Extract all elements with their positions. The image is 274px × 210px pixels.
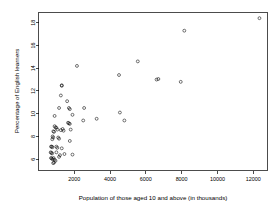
data-points: [49, 17, 261, 165]
data-point: [53, 114, 56, 117]
plot-canvas: 681012141618 20004000600080001000012000 …: [0, 0, 274, 210]
data-point: [60, 147, 63, 150]
data-point: [118, 111, 121, 114]
data-point: [155, 78, 158, 81]
x-axis-title: Population of those aged 10 and above (i…: [79, 194, 228, 201]
data-point: [68, 140, 71, 143]
y-tick-label: 10: [31, 111, 37, 117]
x-axis-tick-labels: 20004000600080001000012000: [68, 176, 260, 182]
data-point: [179, 80, 182, 83]
x-tick-label: 8000: [176, 176, 188, 182]
x-tick-label: 10000: [210, 176, 225, 182]
data-point: [76, 64, 79, 67]
data-point: [95, 117, 98, 120]
plot-frame: [39, 13, 268, 171]
data-point: [52, 162, 55, 165]
data-point: [58, 107, 61, 110]
data-point: [55, 151, 58, 154]
x-tick-label: 2000: [68, 176, 80, 182]
x-axis-ticks: [74, 171, 253, 174]
y-axis-tick-labels: 681012141618: [31, 20, 37, 161]
y-tick-label: 16: [31, 42, 37, 48]
data-point: [157, 78, 160, 81]
data-point: [66, 100, 69, 103]
y-tick-label: 8: [31, 135, 37, 138]
data-point: [53, 130, 56, 133]
data-point: [83, 107, 86, 110]
data-point: [183, 29, 186, 32]
y-tick-label: 12: [31, 88, 37, 94]
data-point: [63, 153, 66, 156]
data-point: [82, 119, 85, 122]
y-axis-title: Percentage of English learners: [13, 49, 20, 134]
scatter-plot-figure: 681012141618 20004000600080001000012000 …: [0, 0, 274, 210]
x-tick-label: 4000: [104, 176, 116, 182]
plot-border: [39, 13, 268, 171]
data-point: [59, 94, 62, 97]
data-point: [71, 153, 74, 156]
y-tick-label: 18: [31, 20, 37, 26]
data-point: [118, 74, 121, 77]
x-tick-label: 6000: [140, 176, 152, 182]
data-point: [258, 17, 261, 20]
data-point: [71, 113, 74, 116]
x-tick-label: 12000: [246, 176, 261, 182]
data-point: [123, 119, 126, 122]
data-point: [69, 128, 72, 131]
y-tick-label: 14: [31, 65, 37, 71]
data-point: [136, 60, 139, 63]
y-tick-label: 6: [31, 158, 37, 161]
